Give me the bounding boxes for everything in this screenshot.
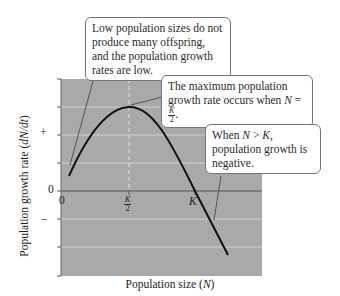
xlabel-var: N [203, 278, 211, 290]
xlabel-end: ) [211, 278, 215, 290]
callout-max-text: The maximum population growth rate occur… [168, 80, 287, 106]
y-axis-label: Population growth rate (dN/dt) [18, 106, 30, 266]
ylabel-var: dN/dt [18, 119, 30, 145]
callout-max-growth: The maximum population growth rate occur… [161, 75, 313, 128]
neg-mid: > [250, 129, 262, 141]
x-axis-label: Population size (N) [0, 278, 340, 290]
x-frac-den: 2 [126, 205, 130, 213]
y-tick-minus: − [41, 213, 48, 225]
neg-var1: N [242, 129, 250, 141]
callout-max-eq: = [292, 94, 301, 106]
xlabel-text: Population size ( [126, 278, 203, 290]
ylabel-end: ) [18, 115, 30, 119]
y-tick-plus: + [40, 126, 47, 138]
callout-low-text: Low population sizes do not produce many… [92, 22, 222, 76]
callout-negative-growth: When N > K, population growth is negativ… [205, 124, 321, 174]
neg-var2: K [262, 129, 270, 141]
ylabel-text: Population growth rate ( [18, 145, 30, 257]
frac-den: 2 [170, 116, 174, 124]
x-tick-zero: 0 [59, 194, 65, 206]
callout-max-var: N [284, 94, 292, 106]
callout-max-end: . [175, 108, 178, 120]
x-tick-k-label: K [189, 195, 197, 207]
y-tick-zero: 0 [48, 183, 54, 195]
x-tick-k-half: K2 [124, 196, 131, 213]
callout-low-population: Low population sizes do not produce many… [85, 17, 231, 81]
neg-pre: When [212, 129, 242, 141]
x-tick-k: K [189, 195, 197, 207]
